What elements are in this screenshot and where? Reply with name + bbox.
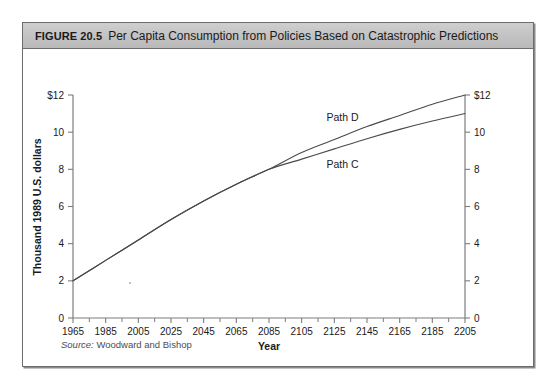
svg-text:2: 2	[58, 275, 64, 286]
series-label-path-c: Path C	[326, 158, 359, 170]
figure-number: FIGURE 20.5	[35, 30, 102, 42]
series-line-path-c	[73, 114, 465, 281]
svg-text:2065: 2065	[225, 326, 248, 337]
svg-text:0: 0	[474, 313, 480, 324]
svg-text:10: 10	[53, 127, 65, 138]
svg-text:2165: 2165	[389, 326, 412, 337]
y-axis-title: Thousand 1989 U.S. dollars	[31, 138, 43, 275]
series-line-path-d	[73, 95, 465, 281]
source-label: Source:	[61, 339, 94, 350]
svg-text:2: 2	[474, 275, 480, 286]
svg-text:1985: 1985	[95, 326, 118, 337]
svg-text:8: 8	[474, 164, 480, 175]
scan-speck	[129, 282, 131, 284]
svg-text:2185: 2185	[421, 326, 444, 337]
svg-text:$12: $12	[47, 90, 64, 101]
svg-text:8: 8	[58, 164, 64, 175]
svg-text:10: 10	[474, 127, 486, 138]
svg-text:2045: 2045	[193, 326, 216, 337]
consumption-line-chart: 0246810$12 0246810$12 196519852005202520…	[23, 50, 533, 367]
page-title: Per Capita Consumption from Policies Bas…	[108, 29, 498, 43]
svg-text:2005: 2005	[127, 326, 150, 337]
svg-text:4: 4	[58, 238, 64, 249]
y-ticks-right: 0246810$12	[465, 90, 491, 324]
svg-text:2025: 2025	[160, 326, 183, 337]
svg-text:$12: $12	[474, 90, 491, 101]
svg-text:1965: 1965	[62, 326, 85, 337]
series-label-path-d: Path D	[326, 111, 359, 123]
x-axis-title: Year	[258, 340, 280, 352]
source-note: Source: Woodward and Bishop	[61, 339, 192, 350]
svg-text:2145: 2145	[356, 326, 379, 337]
svg-text:2105: 2105	[291, 326, 314, 337]
svg-text:6: 6	[58, 201, 64, 212]
svg-text:4: 4	[474, 238, 480, 249]
chart-area: 0246810$12 0246810$12 196519852005202520…	[23, 50, 533, 366]
source-text: Woodward and Bishop	[96, 339, 191, 350]
x-ticks: 1965198520052025204520652085210521252145…	[62, 318, 477, 337]
svg-text:2205: 2205	[454, 326, 477, 337]
svg-text:2125: 2125	[323, 326, 346, 337]
svg-text:2085: 2085	[258, 326, 281, 337]
figure-panel: FIGURE 20.5 Per Capita Consumption from …	[22, 22, 534, 367]
figure-header: FIGURE 20.5 Per Capita Consumption from …	[23, 23, 533, 49]
svg-text:6: 6	[474, 201, 480, 212]
svg-text:0: 0	[58, 313, 64, 324]
y-ticks-left: 0246810$12	[47, 90, 73, 324]
